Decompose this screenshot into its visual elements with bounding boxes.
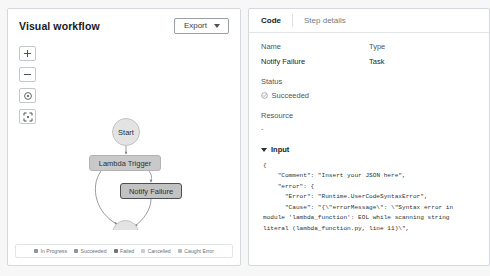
legend-item: Cancelled — [141, 248, 171, 254]
input-section-title: Input — [271, 145, 289, 154]
zoom-in-button[interactable] — [19, 46, 36, 61]
legend-item: Caught Error — [178, 248, 214, 254]
workflow-node-label: Start — [118, 128, 134, 137]
chevron-down-icon — [214, 24, 220, 28]
check-circle-icon — [261, 92, 268, 99]
legend-swatch-icon — [141, 249, 145, 253]
legend-label: Caught Error — [184, 248, 214, 254]
details-tablist: Code Step details — [249, 9, 489, 33]
legend-swatch-icon — [178, 249, 182, 253]
workflow-node-notify-failure[interactable]: Notify Failure — [120, 183, 182, 199]
center-view-button[interactable] — [19, 88, 36, 103]
workflow-node-label: Lambda Trigger — [99, 159, 152, 168]
export-button-label: Export — [184, 22, 207, 30]
legend-item: Failed — [114, 248, 135, 254]
fullscreen-button[interactable] — [19, 109, 36, 124]
legend-swatch-icon — [74, 249, 78, 253]
canvas-zoom-toolbar — [19, 46, 36, 124]
input-section-toggle[interactable]: Input — [261, 145, 477, 154]
legend-label: Failed — [120, 248, 134, 254]
name-field-group: Name Notify Failure — [261, 42, 369, 66]
workflow-node-lambda-trigger[interactable]: Lambda Trigger — [89, 155, 161, 171]
tab-step-details[interactable]: Step details — [293, 9, 357, 32]
tab-code[interactable]: Code — [259, 9, 292, 32]
status-value: Succeeded — [272, 91, 310, 100]
workflow-legend: In Progress Succeeded Failed Cancelled C… — [15, 244, 233, 258]
type-field-group: Type Task — [369, 42, 477, 66]
input-code-block[interactable]: { "Comment": "Insert your JSON here", "e… — [261, 161, 477, 235]
legend-label: Succeeded — [81, 248, 107, 254]
name-label: Name — [261, 42, 369, 51]
workflow-graph: Start Lambda Trigger Notify Failure End — [9, 38, 239, 230]
type-value: Task — [369, 57, 477, 66]
legend-label: Cancelled — [148, 248, 171, 254]
caret-down-icon — [261, 148, 267, 152]
tab-label: Code — [261, 16, 281, 25]
name-value: Notify Failure — [261, 57, 369, 66]
status-field-group: Status Succeeded — [261, 77, 477, 100]
resource-field-group: Resource - — [261, 111, 477, 133]
legend-swatch-icon — [34, 249, 38, 253]
legend-item: Succeeded — [74, 248, 106, 254]
zoom-out-button[interactable] — [19, 67, 36, 82]
workflow-node-start[interactable]: Start — [112, 118, 140, 146]
legend-label: In Progress — [41, 248, 68, 254]
resource-label: Resource — [261, 111, 477, 120]
workflow-node-label: End — [119, 229, 132, 230]
workflow-header: Visual workflow Export — [8, 9, 240, 38]
details-body: Name Notify Failure Type Task Status Suc… — [249, 33, 489, 235]
export-button[interactable]: Export — [174, 18, 229, 34]
legend-swatch-icon — [114, 249, 118, 253]
workflow-canvas[interactable]: Start Lambda Trigger Notify Failure End — [9, 38, 239, 230]
page-title: Visual workflow — [19, 20, 100, 32]
workflow-node-label: Notify Failure — [129, 187, 173, 196]
status-label: Status — [261, 77, 477, 86]
name-type-row: Name Notify Failure Type Task — [261, 42, 477, 66]
resource-value: - — [261, 124, 477, 133]
legend-item: In Progress — [34, 248, 67, 254]
details-panel: Code Step details Name Notify Failure Ty… — [248, 8, 490, 266]
tab-label: Step details — [304, 16, 346, 25]
visual-workflow-panel: Visual workflow Export — [7, 8, 241, 266]
app-root: Visual workflow Export — [0, 0, 490, 276]
type-label: Type — [369, 42, 477, 51]
status-badge: Succeeded — [261, 91, 477, 100]
